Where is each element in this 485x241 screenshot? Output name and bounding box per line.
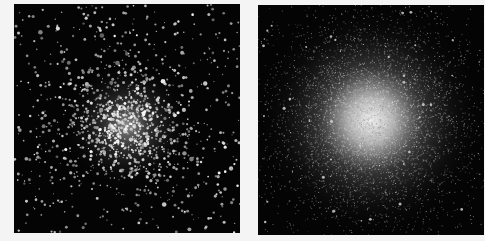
star-field-canvas-left — [14, 4, 240, 233]
cluster-image-left — [14, 4, 240, 233]
cluster-image-right — [258, 5, 484, 235]
star-field-canvas-right — [258, 5, 484, 235]
